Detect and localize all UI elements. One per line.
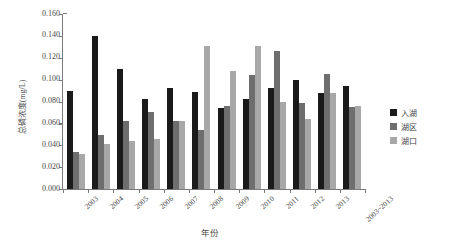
bar (230, 71, 236, 189)
y-axis-tick-label: 0.120 (42, 52, 60, 61)
x-axis-tick-label: 2010 (259, 194, 276, 211)
bar (179, 121, 185, 189)
bar-group (214, 14, 239, 189)
bar-group (164, 14, 189, 189)
x-axis-tick-label: 2003 (82, 194, 99, 211)
y-axis-tick-label: 0.140 (42, 30, 60, 39)
x-axis-tick-label: 2004 (108, 194, 125, 211)
bar (79, 154, 85, 189)
bar-group (88, 14, 113, 189)
x-axis-tick-label: 2007 (183, 194, 200, 211)
bar-group (290, 14, 315, 189)
y-axis-tick-label: 0.100 (42, 74, 60, 83)
bar (330, 93, 336, 189)
x-axis-tick-mark (113, 189, 114, 193)
x-axis-tick-label: 2012 (309, 194, 326, 211)
y-axis-tick-label: 0.160 (42, 9, 60, 18)
x-axis-tick-label: 2006 (158, 194, 175, 211)
x-axis-tick-mark (264, 189, 265, 193)
bar-group (139, 14, 164, 189)
bar (129, 141, 135, 189)
legend-label: 入湖 (401, 107, 417, 118)
x-axis-tick-mark (340, 189, 341, 193)
x-axis-tick-mark (189, 189, 190, 193)
x-axis-tick-mark (63, 189, 64, 193)
legend-item[interactable]: 入湖 (390, 108, 417, 117)
legend-item[interactable]: 湖区 (390, 122, 417, 131)
legend-label: 湖口 (401, 135, 417, 146)
x-axis-tick-label: 2009 (233, 194, 250, 211)
x-axis-tick-mark (365, 189, 366, 193)
bar-group (113, 14, 138, 189)
x-axis-tick-label: 2005 (133, 194, 150, 211)
bar-chart: 总磷浓度(mg/L) 0.1600.1400.1200.1000.0800.06… (0, 0, 453, 251)
bar (204, 46, 210, 189)
bar (305, 119, 311, 189)
x-axis-tick-label: 2008 (208, 194, 225, 211)
legend-label: 湖区 (401, 121, 417, 132)
x-axis-tick-label: 2011 (284, 194, 301, 211)
x-axis-tick-mark (239, 189, 240, 193)
bar-group (340, 14, 365, 189)
bar-group (315, 14, 340, 189)
bar (280, 102, 286, 190)
x-axis-tick-mark (214, 189, 215, 193)
x-axis-tick-mark (88, 189, 89, 193)
x-axis-tick-mark (290, 189, 291, 193)
legend: 入湖湖区湖口 (390, 108, 417, 145)
y-axis-tick-label: 0.000 (42, 184, 60, 193)
x-axis-tick-label: 2003~2013 (364, 194, 395, 223)
legend-swatch-icon (390, 123, 397, 130)
bar (255, 46, 261, 189)
legend-swatch-icon (390, 109, 397, 116)
bar-group (264, 14, 289, 189)
x-axis-tick-mark (164, 189, 165, 193)
bar-group (239, 14, 264, 189)
x-axis-tick-mark (139, 189, 140, 193)
bar (154, 139, 160, 189)
legend-item[interactable]: 湖口 (390, 136, 417, 145)
x-axis-tick-mark (315, 189, 316, 193)
bar-group (63, 14, 88, 189)
bar (355, 106, 361, 189)
bar-group (189, 14, 214, 189)
y-axis-tick-label: 0.020 (42, 162, 60, 171)
x-axis-tick-label: 2013 (334, 194, 351, 211)
x-axis-title: 年份 (0, 226, 420, 238)
plot-area: 0.1600.1400.1200.1000.0800.0600.0400.020… (62, 14, 365, 190)
y-axis-tick-label: 0.060 (42, 118, 60, 127)
y-axis-tick-label: 0.080 (42, 96, 60, 105)
legend-swatch-icon (390, 137, 397, 144)
y-axis-title: 总磷浓度(mg/L) (16, 52, 30, 162)
y-axis-tick-label: 0.040 (42, 140, 60, 149)
bar (104, 144, 110, 189)
